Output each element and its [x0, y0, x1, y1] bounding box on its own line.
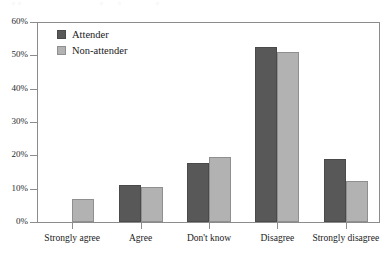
x-axis-tick: [209, 222, 210, 229]
x-axis-tick: [277, 222, 278, 229]
y-axis-tick-label: 0%: [0, 217, 28, 226]
bar-attender: [119, 185, 141, 222]
y-axis-tick: [30, 189, 37, 190]
x-axis-category-label: Disagree: [239, 233, 315, 244]
bar-attender: [187, 163, 209, 222]
bar-attender: [324, 159, 346, 222]
x-axis-tick: [346, 222, 347, 229]
y-axis-tick-label: 60%: [0, 17, 28, 26]
legend-label-non-attender: Non-attender: [72, 45, 127, 56]
legend-item-attender: Attender: [57, 27, 177, 41]
legend-swatch-non-attender-icon: [57, 46, 66, 55]
y-axis-tick: [30, 222, 37, 223]
y-axis-tick-label: 40%: [0, 84, 28, 93]
page-bleed-text: ▫ ▫ ▫ ▫ ▫: [0, 0, 389, 11]
bar-non-attender: [209, 157, 231, 222]
page-bleed-fragment: ▫: [100, 0, 103, 8]
x-axis-category-label: Don't know: [171, 233, 247, 244]
bar-attender: [255, 47, 277, 222]
y-axis-tick-label-text: 40%: [1, 84, 28, 93]
y-axis-tick: [30, 155, 37, 156]
y-axis-tick: [30, 22, 37, 23]
y-axis-tick: [30, 55, 37, 56]
y-axis-tick-label-text: 60%: [1, 17, 28, 26]
page-bleed-fragment: ▫: [118, 0, 121, 8]
x-axis-tick: [141, 222, 142, 229]
x-axis-category-label: Strongly agree: [34, 233, 110, 244]
y-axis-tick-label-text: 20%: [1, 150, 28, 159]
bar-non-attender: [141, 187, 163, 222]
bar-non-attender: [72, 199, 94, 222]
x-axis-category-label: Strongly disagree: [308, 233, 384, 244]
page-bleed-fragment: ▫: [156, 0, 159, 8]
x-axis-category-label: Agree: [103, 233, 179, 244]
bar-chart: ▫ ▫ ▫ ▫ ▫ 0%10%20%30%40%50%60% Strongly …: [0, 0, 389, 267]
y-axis-tick-label-text: 0%: [1, 217, 28, 226]
y-axis-tick-label: 10%: [0, 184, 28, 193]
page-bleed-fragment: ▫: [12, 0, 15, 8]
y-axis-tick-label-text: 10%: [1, 184, 28, 193]
y-axis-tick: [30, 122, 37, 123]
x-axis-tick: [72, 222, 73, 229]
x-axis-line: [30, 222, 380, 223]
chart-legend: Attender Non-attender: [57, 27, 177, 59]
legend-swatch-attender-icon: [57, 30, 66, 39]
y-axis-tick-label-text: 50%: [1, 50, 28, 59]
bar-non-attender: [346, 181, 368, 222]
page-bleed-fragment: ▫: [18, 0, 21, 8]
y-axis-tick-label: 30%: [0, 117, 28, 126]
legend-item-non-attender: Non-attender: [57, 43, 177, 57]
y-axis-tick: [30, 89, 37, 90]
y-axis-tick-label: 20%: [0, 150, 28, 159]
legend-label-attender: Attender: [72, 29, 109, 40]
bar-non-attender: [277, 52, 299, 222]
y-axis-tick-label-text: 30%: [1, 117, 28, 126]
y-axis-tick-label: 50%: [0, 50, 28, 59]
